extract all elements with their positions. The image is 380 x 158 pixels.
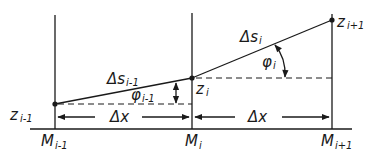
- label-z-ip1: zi+1: [336, 13, 364, 31]
- label-ds-i: Δsi: [239, 28, 262, 46]
- point-z-i: [189, 75, 194, 80]
- point-z-ip1: [329, 17, 334, 22]
- label-m-i: Mi: [185, 132, 202, 151]
- label-dx-right: Δx: [247, 108, 267, 126]
- label-m-ip1: Mi+1: [321, 132, 352, 151]
- point-z-im1: [52, 101, 57, 106]
- label-m-im1: Mi-1: [41, 132, 68, 151]
- angle-arc-phi-i: [275, 45, 285, 77]
- label-phi-im1: φi-1: [131, 86, 155, 104]
- label-dx-left: Δx: [109, 108, 129, 126]
- label-z-im1: zi-1: [9, 106, 33, 124]
- label-phi-i: φi: [262, 53, 276, 71]
- discretization-diagram: zi-1 zi zi+1 Δsi-1 Δsi φi-1 φi Δx Δx Mi-…: [0, 0, 380, 158]
- label-z-i: zi: [195, 80, 209, 98]
